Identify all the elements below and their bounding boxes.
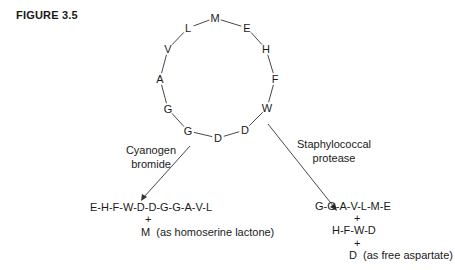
peptide-bond (268, 55, 274, 74)
residue-w: W (262, 102, 273, 114)
left-product-2: M (as homoserine lactone) (141, 225, 274, 239)
peptide-bond (249, 112, 263, 126)
residue-d: D (214, 132, 222, 144)
residue-f: F (272, 73, 279, 85)
residue-a: A (156, 73, 164, 85)
residue-h: H (262, 43, 270, 55)
left-product-1: E-H-F-W-D-D-G-G-A-V-L (90, 200, 212, 214)
peptide-bond (162, 85, 167, 103)
peptide-bond (162, 55, 167, 73)
residue-e: E (243, 22, 250, 34)
left-plus: + (145, 214, 151, 225)
peptide-bond (224, 132, 239, 137)
residue-l: L (185, 22, 191, 34)
peptide-bond (172, 32, 184, 44)
residue-m: M (210, 12, 219, 24)
peptide-bond (221, 20, 242, 26)
staphylococcal-protease-label: Staphylococcal protease (284, 137, 384, 165)
residue-v: V (164, 43, 172, 55)
cyanogen-bromide-label: Cyanogen bromide (112, 143, 190, 171)
residue-g: G (184, 125, 193, 137)
peptide-bond (251, 32, 262, 44)
residue-d: D (241, 124, 249, 136)
peptide-bond (269, 85, 274, 102)
peptide-bond (194, 20, 210, 26)
right-product-3: D (as free aspartate) (349, 248, 453, 262)
peptide-bond (172, 113, 184, 126)
residue-g: G (164, 103, 173, 115)
peptide-bond (194, 132, 212, 136)
right-product-1: G-G-A-V-L-M-E (315, 199, 391, 213)
right-product-2: H-F-W-D (332, 223, 376, 237)
peptide-bonds (162, 20, 274, 137)
residue-labels: MEHFWDDGGAVL (156, 12, 278, 144)
